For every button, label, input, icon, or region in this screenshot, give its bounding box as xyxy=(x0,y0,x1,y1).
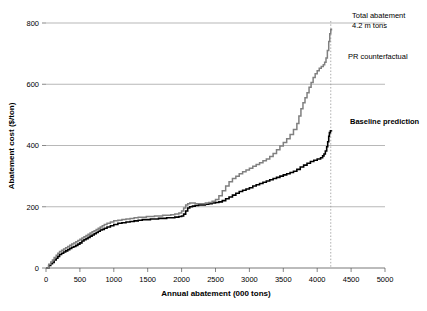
y-tick-label: 400 xyxy=(26,141,39,150)
annotation-pr-counterfactual: PR counterfactual xyxy=(348,52,408,61)
x-tick-label: 4000 xyxy=(309,275,326,284)
abatement-cost-chart: 0200400600800 05001000150020002500300035… xyxy=(0,0,427,311)
x-tick-label: 3500 xyxy=(275,275,292,284)
y-tick-label: 200 xyxy=(26,203,39,212)
series-line-baseline-prediction xyxy=(46,130,331,268)
y-tick-label: 800 xyxy=(26,19,39,28)
series-group xyxy=(46,29,331,268)
y-tick-label: 600 xyxy=(26,80,39,89)
y-axis-title: Abatement cost ($/ton) xyxy=(7,102,16,189)
annotation-total-abatement-line2: 4.2 m tons xyxy=(352,21,387,30)
x-axis-title: Annual abatement (000 tons) xyxy=(161,289,271,298)
y-axis-ticks-group: 0200400600800 xyxy=(26,19,46,273)
gridlines-group xyxy=(46,23,385,207)
x-tick-label: 2500 xyxy=(207,275,224,284)
x-tick-label: 0 xyxy=(44,275,48,284)
annotation-total-abatement-line1: Total abatement xyxy=(352,11,406,20)
annotation-baseline-prediction: Baseline prediction xyxy=(350,117,420,126)
chart-canvas: 0200400600800 05001000150020002500300035… xyxy=(0,0,427,311)
x-tick-label: 500 xyxy=(74,275,87,284)
x-tick-label: 1000 xyxy=(105,275,122,284)
x-tick-label: 5000 xyxy=(377,275,394,284)
x-tick-label: 3000 xyxy=(241,275,258,284)
x-tick-label: 2000 xyxy=(173,275,190,284)
x-tick-label: 1500 xyxy=(139,275,156,284)
y-tick-label: 0 xyxy=(35,264,39,273)
series-line-pr-counterfactual xyxy=(46,29,331,268)
x-axis-group: 0500100015002000250030003500400045005000 xyxy=(44,268,393,284)
annotations-group: Total abatement4.2 m tonsPR counterfactu… xyxy=(348,11,420,126)
x-tick-label: 4500 xyxy=(343,275,360,284)
